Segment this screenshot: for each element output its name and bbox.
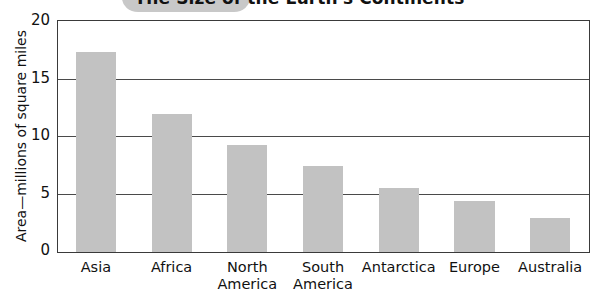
x-tick-label-line: Europe: [437, 259, 513, 276]
chart-title: The Size of the Earth's Continents: [0, 0, 599, 8]
bar: [379, 188, 419, 252]
x-tick-label: Antarctica: [361, 259, 437, 293]
x-tick-label-line: South: [285, 259, 361, 276]
bar-slot: [437, 21, 513, 252]
x-tick-label: Africa: [134, 259, 210, 293]
x-tick-label: Asia: [58, 259, 134, 293]
bars-container: [58, 21, 588, 252]
y-tick-label: 20: [16, 13, 50, 28]
bar-slot: [134, 21, 210, 252]
bar: [303, 166, 343, 252]
y-tick-label: 5: [16, 186, 50, 201]
bar: [227, 145, 267, 252]
x-tick-label: Australia: [512, 259, 588, 293]
bar: [530, 218, 570, 253]
x-tick-label-line: America: [285, 276, 361, 293]
bar-slot: [285, 21, 361, 252]
x-tick-label-line: Australia: [512, 259, 588, 276]
x-axis-tick-labels: AsiaAfricaNorthAmericaSouthAmericaAntarc…: [58, 259, 588, 293]
y-tick-label: 10: [16, 128, 50, 143]
y-tick-label: 0: [16, 243, 50, 258]
bar: [76, 52, 116, 252]
x-tick-label-line: Africa: [134, 259, 210, 276]
x-tick-label: SouthAmerica: [285, 259, 361, 293]
bar-chart: The Size of the Earth's Continents Area—…: [0, 0, 599, 307]
x-tick-label: NorthAmerica: [209, 259, 285, 293]
x-tick-label-line: Asia: [58, 259, 134, 276]
x-tick-label-line: America: [209, 276, 285, 293]
y-axis-tick-labels: 20151050: [10, 0, 50, 307]
bar-slot: [361, 21, 437, 252]
bar: [152, 114, 192, 252]
x-tick-label-line: Antarctica: [361, 259, 437, 276]
y-tick-label: 15: [16, 71, 50, 86]
x-tick-label-line: North: [209, 259, 285, 276]
bar: [454, 201, 494, 252]
bar-slot: [512, 21, 588, 252]
bar-slot: [209, 21, 285, 252]
bar-slot: [58, 21, 134, 252]
x-tick-label: Europe: [437, 259, 513, 293]
